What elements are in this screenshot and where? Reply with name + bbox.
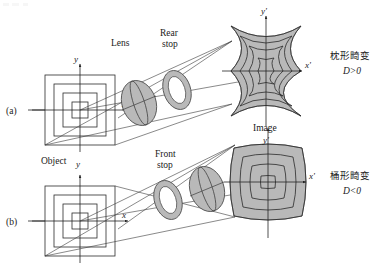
rear-stop-label-line2: stop — [162, 39, 178, 49]
panel-label-a: (a) — [6, 106, 17, 117]
distortion-figure: y x (a) Lens — [0, 0, 382, 276]
optics-distortion-diagram: y x (a) Lens — [0, 0, 382, 276]
panel-a: y x (a) Lens — [6, 6, 370, 152]
front-stop-label-line1: Front — [155, 149, 176, 159]
panel-b: Object y x (b) — [6, 128, 370, 263]
rear-stop-a — [158, 67, 196, 113]
axis-label-xprime-a: x' — [304, 60, 312, 70]
lens-a — [116, 76, 163, 130]
barrel-caption-cn: 桶形畸变 — [330, 170, 370, 181]
rear-stop-label-line1: Rear — [160, 28, 179, 38]
lens-b — [184, 162, 231, 216]
axis-label-yprime-a: y' — [260, 6, 268, 16]
lens-label-a: Lens — [111, 38, 130, 48]
panel-label-b: (b) — [6, 217, 17, 228]
axis-label-y-a: y — [73, 54, 78, 64]
pincushion-caption-d: D>0 — [342, 66, 361, 76]
object-label: Object — [41, 156, 67, 166]
axis-label-yprime-b: y' — [262, 135, 270, 145]
image-label: Image — [253, 123, 277, 133]
scan-artifact — [3, 3, 28, 6]
pincushion-caption-cn: 枕形畸变 — [330, 50, 370, 61]
object-axes-b — [32, 175, 128, 263]
object-axes-a — [32, 64, 128, 152]
axis-label-y-b: y — [75, 159, 80, 169]
axis-label-xprime-b: x' — [308, 171, 316, 181]
barrel-caption-d: D<0 — [342, 186, 361, 196]
front-stop-label-line2: stop — [157, 160, 173, 170]
